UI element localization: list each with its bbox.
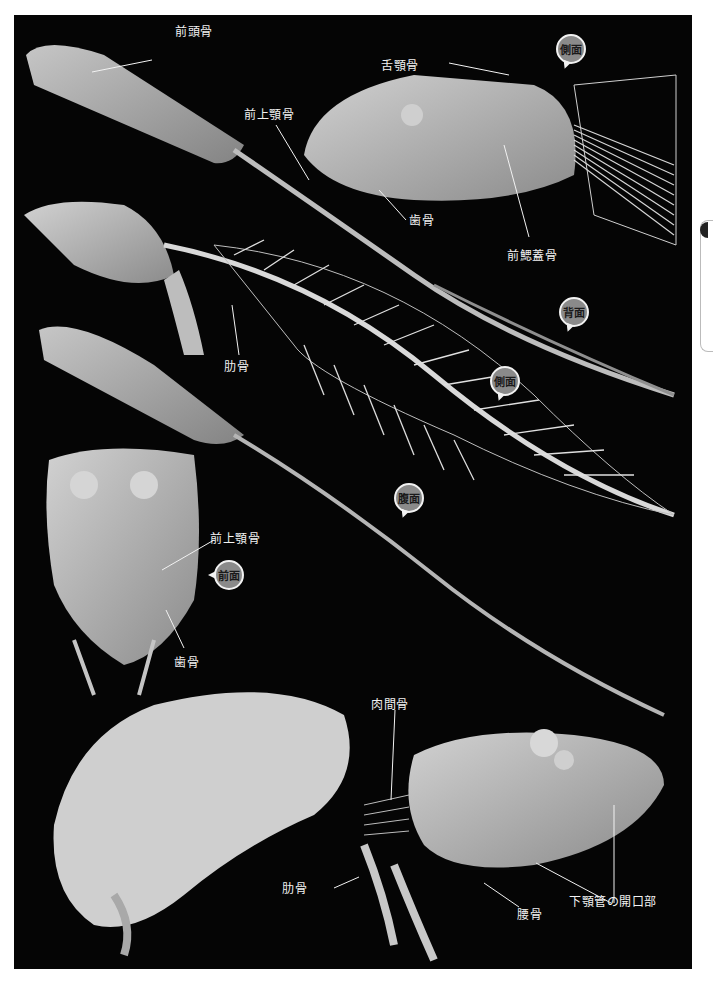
label-premaxilla-top: 前上顎骨	[244, 105, 294, 122]
ct-figure-panel: 前頭骨 前上顎骨 舌顎骨 歯骨 前鰓蓋骨 肋骨 前上顎骨 歯骨 肉間骨 肋骨 腰…	[14, 15, 692, 969]
label-rib-mid: 肋骨	[224, 357, 249, 374]
label-premaxilla-front: 前上顎骨	[210, 529, 260, 546]
badge-lateral-top: 側面	[556, 34, 586, 64]
label-frontal-bone: 前頭骨	[175, 22, 213, 39]
skeleton-head-oblique	[364, 729, 664, 960]
label-dentary-top: 歯骨	[409, 211, 434, 228]
skeleton-illustrations	[14, 15, 692, 969]
lateral-head-closeup	[304, 75, 676, 245]
label-dentary-front: 歯骨	[174, 653, 199, 670]
label-mandibular-canal-opening: 下顎管の開口部	[569, 892, 657, 909]
badge-ventral: 腹面	[394, 483, 424, 513]
label-rib-bottom: 肋骨	[282, 879, 307, 896]
badge-frontal: 前面	[214, 560, 244, 590]
label-preopercle: 前鰓蓋骨	[507, 246, 557, 263]
label-intermuscular-bone: 肉間骨	[371, 695, 409, 712]
badge-dorsal: 背面	[559, 297, 589, 327]
page-edge-tab	[700, 220, 713, 352]
badge-lateral-mid: 側面	[490, 366, 520, 396]
label-hyomandibula: 舌顎骨	[381, 56, 419, 73]
skin-surface-head	[54, 692, 350, 955]
label-pelvic-bone: 腰骨	[517, 905, 542, 922]
